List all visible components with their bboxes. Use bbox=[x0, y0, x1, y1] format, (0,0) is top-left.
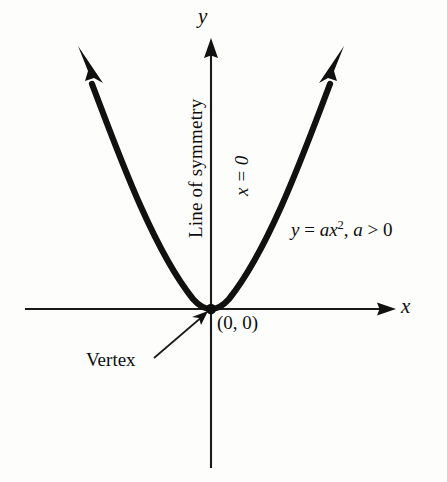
line-of-symmetry-label: Line of symmetry bbox=[186, 99, 205, 238]
vertex-leader-arrow bbox=[154, 311, 208, 358]
y-axis-label: y bbox=[198, 6, 207, 27]
vertex-leader-line bbox=[154, 316, 203, 358]
graph-canvas bbox=[0, 0, 447, 482]
parabola-right-arrowhead bbox=[319, 46, 344, 83]
equation-coefficient: a bbox=[320, 219, 330, 240]
parabola-figure: y x Line of symmetry x = 0 y = ax2, a > … bbox=[0, 0, 447, 482]
parabola-left-arrowhead bbox=[78, 46, 103, 83]
x-axis-arrowhead bbox=[377, 303, 396, 316]
axes-group bbox=[25, 38, 396, 468]
equation-relation: = bbox=[304, 219, 315, 240]
equation-condition-value: 0 bbox=[383, 219, 393, 240]
origin-coordinate-label: (0, 0) bbox=[217, 313, 258, 332]
equation-condition-relation: > bbox=[368, 219, 379, 240]
equation-condition-variable: a bbox=[353, 219, 363, 240]
equation-separator: , bbox=[344, 219, 349, 240]
x-axis-label: x bbox=[401, 296, 410, 317]
equation-variable: x bbox=[329, 219, 337, 240]
vertex-point-marker bbox=[206, 304, 216, 314]
line-of-symmetry-equation-label: x = 0 bbox=[232, 156, 251, 196]
equation-lhs: y bbox=[291, 219, 299, 240]
vertex-label: Vertex bbox=[86, 350, 136, 369]
curve-equation-label: y = ax2, a > 0 bbox=[291, 220, 393, 239]
y-axis-arrowhead bbox=[204, 38, 218, 58]
